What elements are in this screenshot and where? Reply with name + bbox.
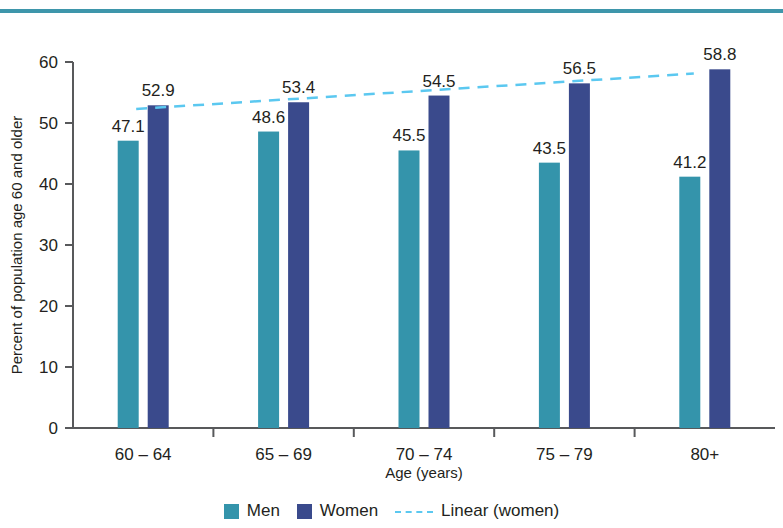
x-axis-title: Age (years) [385, 464, 463, 481]
bar-women [569, 83, 590, 428]
top-rule-divider [0, 9, 783, 13]
bar-group-women [148, 69, 731, 428]
y-tick-label: 0 [49, 419, 58, 438]
figure-container: 0102030405060 60 – 6465 – 6970 – 7475 – … [0, 0, 783, 528]
bar-chart-svg: 0102030405060 60 – 6465 – 6970 – 7475 – … [0, 18, 783, 488]
y-tick-label: 20 [39, 297, 58, 316]
legend-item-women: Women [297, 501, 378, 521]
legend-label-men: Men [247, 501, 280, 521]
x-axis-ticks [213, 428, 634, 437]
bar-value-label-men: 43.5 [533, 139, 566, 158]
y-axis-tick-labels: 0102030405060 [39, 53, 58, 438]
y-tick-label: 40 [39, 175, 58, 194]
y-tick-label: 60 [39, 53, 58, 72]
legend-swatch-women-icon [297, 504, 312, 519]
bar-men [258, 132, 279, 428]
chart-plot-area: 0102030405060 60 – 6465 – 6970 – 7475 – … [0, 18, 783, 488]
value-labels-women: 52.953.454.556.558.8 [142, 45, 737, 100]
x-tick-label: 75 – 79 [536, 445, 593, 464]
legend-swatch-men-icon [224, 504, 239, 519]
bar-men [539, 163, 560, 428]
x-tick-label: 60 – 64 [115, 445, 172, 464]
legend-item-men: Men [224, 501, 280, 521]
bar-value-label-men: 48.6 [252, 108, 285, 127]
y-tick-label: 10 [39, 358, 58, 377]
legend-label-linear-women: Linear (women) [441, 501, 559, 521]
y-axis-title: Percent of population age 60 and older [8, 116, 25, 375]
legend-item-linear-women: Linear (women) [395, 501, 559, 521]
bar-value-label-women: 56.5 [563, 59, 596, 78]
bar-men [399, 150, 420, 428]
x-tick-label: 80+ [690, 445, 719, 464]
bar-value-label-men: 41.2 [673, 153, 706, 172]
bar-women [148, 105, 169, 428]
trendline-linear-women [136, 74, 694, 109]
bar-value-label-women: 52.9 [142, 81, 175, 100]
bar-women [288, 102, 309, 428]
bar-value-label-men: 45.5 [392, 126, 425, 145]
x-tick-label: 65 – 69 [255, 445, 312, 464]
legend-dashed-line-icon [395, 504, 433, 519]
bar-value-label-women: 53.4 [282, 78, 315, 97]
bar-men [679, 177, 700, 428]
legend-label-women: Women [320, 501, 378, 521]
bar-value-label-men: 47.1 [112, 117, 145, 136]
x-tick-label: 70 – 74 [396, 445, 453, 464]
bar-group-men [118, 132, 701, 428]
x-axis-tick-labels: 60 – 6465 – 6970 – 7475 – 7980+ [115, 445, 719, 464]
bar-women [709, 69, 730, 428]
bar-men [118, 141, 139, 428]
chart-legend: Men Women Linear (women) [0, 498, 783, 524]
y-tick-label: 30 [39, 236, 58, 255]
y-tick-label: 50 [39, 114, 58, 133]
y-axis-ticks [65, 62, 73, 428]
bar-women [429, 96, 450, 428]
bar-value-label-women: 58.8 [703, 45, 736, 64]
bar-value-label-women: 54.5 [422, 72, 455, 91]
